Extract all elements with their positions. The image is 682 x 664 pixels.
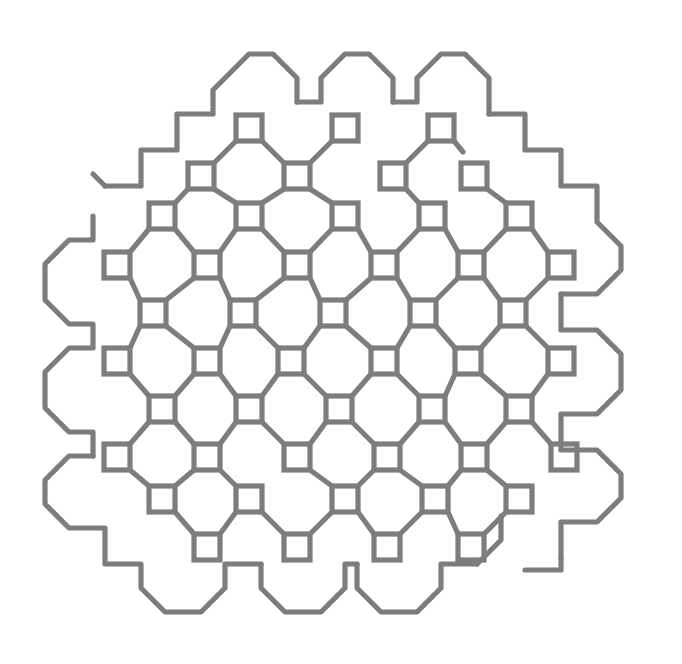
maze-lattice-artwork	[0, 0, 682, 664]
